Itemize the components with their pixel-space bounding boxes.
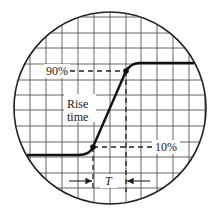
upper-level-label: 90% bbox=[46, 64, 68, 78]
oscilloscope-diagram: 90% 10% Rise time T bbox=[0, 0, 217, 214]
lower-level-label: 10% bbox=[155, 140, 177, 154]
rise-time-label-line1: Rise bbox=[67, 97, 88, 111]
rise-time-label-line2: time bbox=[67, 110, 88, 124]
ninety-percent-point bbox=[123, 68, 129, 74]
ten-percent-point bbox=[90, 144, 96, 150]
